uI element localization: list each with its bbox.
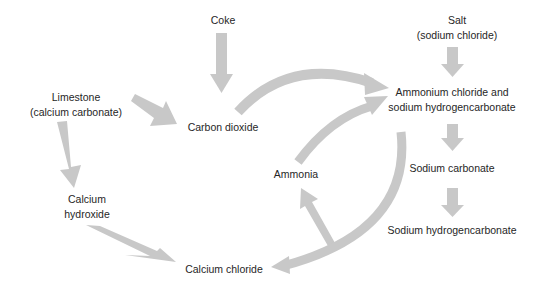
arrow-limestone-to-carbon-dioxide: [131, 94, 177, 126]
arrow-coke-to-carbon-dioxide: [210, 33, 233, 93]
node-label: Carbon dioxide: [188, 120, 259, 135]
arrow-ammonia-to-ammonium-chloride: [298, 106, 372, 162]
node-label: Sodium hydrogencarbonate: [387, 223, 516, 238]
arrowhead-co2-arc: [364, 73, 389, 95]
node-label: Limestone: [30, 90, 122, 105]
node-label: Salt: [417, 13, 498, 28]
node-label: hydroxide: [64, 207, 110, 222]
arrow-salt-to-ammonium-chloride: [441, 47, 464, 77]
node-carbon-dioxide: Carbon dioxide: [188, 120, 259, 135]
node-label: sodium hydrogencarbonate: [388, 100, 515, 115]
node-sodium-carbonate: Sodium carbonate: [409, 161, 494, 176]
node-label: Calcium: [64, 192, 110, 207]
arrow-carbon-dioxide-to-ammonium-chloride: [238, 74, 372, 112]
arrows-layer: [0, 0, 545, 291]
node-label: Sodium carbonate: [409, 161, 494, 176]
node-label: Coke: [211, 13, 236, 28]
node-limestone: Limestone (calcium carbonate): [30, 90, 122, 120]
arrow-to-ammonia: [300, 188, 335, 246]
node-label: (sodium chloride): [417, 28, 498, 43]
node-calcium-chloride: Calcium chloride: [185, 262, 263, 277]
node-ammonium-chloride: Ammonium chloride and sodium hydrogencar…: [388, 85, 515, 115]
node-coke: Coke: [211, 13, 236, 28]
node-sodium-hydrogencarbonate: Sodium hydrogencarbonate: [387, 223, 516, 238]
arrow-sodium-carbonate-to-sodium-hydrogencarbonate: [441, 188, 464, 217]
arrowhead-calcium-chloride: [271, 256, 290, 274]
node-label: Ammonia: [274, 167, 318, 182]
node-ammonia: Ammonia: [274, 167, 318, 182]
arrow-calcium-hydroxide-to-calcium-chloride: [86, 225, 176, 262]
node-label: Calcium chloride: [185, 262, 263, 277]
arrow-ammonium-chloride-to-sodium-carbonate: [441, 124, 464, 151]
node-calcium-hydroxide: Calcium hydroxide: [64, 192, 110, 222]
node-label: (calcium carbonate): [30, 105, 122, 120]
arrow-limestone-to-calcium-hydroxide: [57, 121, 81, 188]
node-salt: Salt (sodium chloride): [417, 13, 498, 43]
node-label: Ammonium chloride and: [388, 85, 515, 100]
